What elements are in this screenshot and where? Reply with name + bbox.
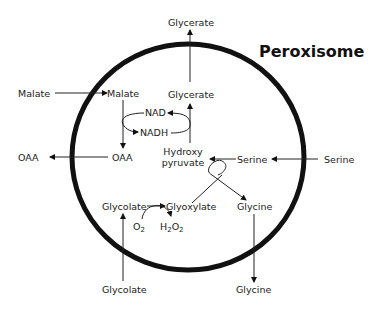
label-malate-outside: Malate bbox=[18, 88, 50, 99]
label-pyruvate: pyruvate bbox=[162, 157, 205, 168]
label-serine-outside: Serine bbox=[324, 154, 354, 165]
label-o2: O2 bbox=[133, 221, 145, 236]
label-oaa-inside: OAA bbox=[112, 152, 133, 163]
label-glycolate-inside: Glycolate bbox=[102, 201, 147, 212]
line-from-glyoxylate bbox=[192, 175, 222, 203]
label-nad: NAD bbox=[145, 107, 166, 118]
label-serine-inside: Serine bbox=[237, 154, 267, 165]
label-glycine-inside: Glycine bbox=[237, 201, 272, 212]
label-nadh: NADH bbox=[140, 127, 168, 138]
label-h2o2: H2O2 bbox=[160, 221, 184, 236]
label-glycine-outside: Glycine bbox=[236, 284, 271, 295]
label-glycolate-outside: Glycolate bbox=[102, 284, 147, 295]
label-glycerate-outside: Glycerate bbox=[168, 17, 214, 28]
transamination-loop bbox=[209, 160, 226, 175]
label-malate-inside: Malate bbox=[107, 88, 139, 99]
label-hydroxy: Hydroxy bbox=[163, 146, 202, 157]
nadh-to-nad-curve bbox=[168, 113, 190, 133]
label-glyoxylate: Glyoxylate bbox=[166, 201, 216, 212]
label-glycerate-inside: Glycerate bbox=[168, 89, 214, 100]
diagram-title: Peroxisome bbox=[259, 42, 364, 61]
label-oaa-outside: OAA bbox=[18, 152, 39, 163]
arrow-to-glycine bbox=[212, 175, 246, 200]
